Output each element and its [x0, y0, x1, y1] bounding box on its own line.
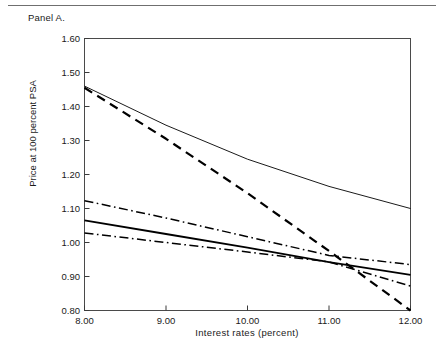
x-axis-title: Interest rates (percent) — [84, 327, 410, 338]
x-tick-label: 8.00 — [62, 315, 108, 326]
x-tick-label: 11.00 — [306, 315, 352, 326]
y-axis-title: Price at 100 percent PSA — [27, 34, 38, 234]
x-tick-label: 9.00 — [143, 315, 189, 326]
x-tick-label: 10.00 — [225, 315, 271, 326]
x-tick-label: 12.00 — [388, 315, 434, 326]
figure-page: Panel A. 0.800.901.001.101.201.301.401.5… — [0, 0, 442, 349]
x-tick-labels: 8.009.0010.0011.0012.00 — [0, 0, 442, 349]
chart-figure: 0.800.901.001.101.201.301.401.501.60 8.0… — [0, 0, 442, 349]
